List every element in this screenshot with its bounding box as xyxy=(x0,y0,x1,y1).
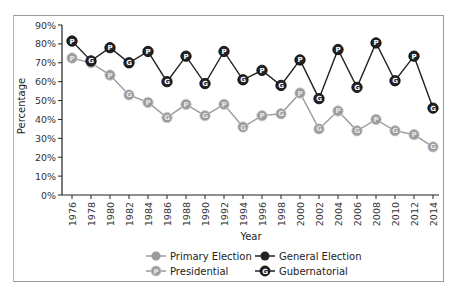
series-layer: PGPGPGPGPGPGPGPGPGPGPGPGPGPGPGPGPGPGPGPG xyxy=(67,36,438,152)
point-label: G xyxy=(240,76,246,84)
x-tick-label: 1990 xyxy=(200,202,211,226)
x-tick-label: 2012 xyxy=(409,202,420,226)
data-point: G xyxy=(276,80,286,90)
data-point: G xyxy=(276,109,286,119)
data-point: P xyxy=(143,46,153,56)
point-label: G xyxy=(164,114,170,122)
legend: Primary ElectionGeneral ElectionPPreside… xyxy=(146,251,362,277)
series-line xyxy=(72,58,433,147)
data-point: P xyxy=(333,106,343,116)
data-point: P xyxy=(67,36,77,46)
data-point: P xyxy=(371,38,381,48)
data-point: G xyxy=(390,76,400,86)
point-label: G xyxy=(164,78,170,86)
data-point: P xyxy=(371,114,381,124)
x-axis: 1976197819801982198419861988199019921994… xyxy=(62,195,439,226)
point-label: G xyxy=(126,91,132,99)
data-point: G xyxy=(352,82,362,92)
point-label: P xyxy=(373,39,378,47)
x-axis-title: Year xyxy=(239,231,262,242)
x-tick-label: 1994 xyxy=(238,202,249,226)
x-tick-label: 2006 xyxy=(352,202,363,226)
x-tick-label: 1988 xyxy=(181,202,192,226)
data-point: G xyxy=(124,58,134,68)
point-label: P xyxy=(145,99,150,107)
point-label: P xyxy=(411,53,416,61)
y-tick-label: 0% xyxy=(41,190,56,201)
y-tick-label: 20% xyxy=(35,152,56,163)
point-label: P xyxy=(221,101,226,109)
y-axis: 0%10%20%30%40%50%60%70%80%90% xyxy=(35,20,62,201)
data-point: G xyxy=(352,126,362,136)
point-label: G xyxy=(316,125,322,133)
x-tick-label: 1998 xyxy=(276,202,287,226)
series-general-election: PGPGPGPGPGPGPGPGPGPG xyxy=(67,36,438,113)
data-point: P xyxy=(219,46,229,56)
data-point: P xyxy=(409,129,419,139)
data-point: P xyxy=(257,110,267,120)
point-label: G xyxy=(240,124,246,132)
data-point: G xyxy=(428,142,438,152)
x-tick-label: 2002 xyxy=(314,202,325,226)
x-tick-label: 1996 xyxy=(257,202,268,226)
legend-item-presidential: PPresidential xyxy=(146,266,228,277)
point-label: G xyxy=(278,110,284,118)
data-point: P xyxy=(409,51,419,61)
point-label: P xyxy=(297,56,302,64)
y-tick-label: 40% xyxy=(35,114,56,125)
y-tick-label: 50% xyxy=(35,95,56,106)
x-tick-label: 1982 xyxy=(124,202,135,226)
point-label: P xyxy=(69,38,74,46)
legend-marker xyxy=(261,252,270,261)
data-point: P xyxy=(295,88,305,98)
point-label: G xyxy=(392,77,398,85)
point-label: G xyxy=(392,127,398,135)
data-point: P xyxy=(105,70,115,80)
x-tick-label: 2010 xyxy=(390,202,401,226)
point-label: P xyxy=(297,90,302,98)
data-point: G xyxy=(200,110,210,120)
x-tick-label: 1992 xyxy=(219,202,230,226)
legend-marker-glyph: P xyxy=(153,268,158,276)
legend-label: Presidential xyxy=(170,266,228,277)
point-label: G xyxy=(354,84,360,92)
data-point: G xyxy=(238,75,248,85)
x-tick-label: 1976 xyxy=(67,202,78,226)
y-tick-label: 80% xyxy=(35,38,56,49)
data-point: G xyxy=(428,103,438,113)
point-label: P xyxy=(221,48,226,56)
data-point: G xyxy=(162,76,172,86)
data-point: P xyxy=(105,42,115,52)
point-label: P xyxy=(183,101,188,109)
y-tick-label: 70% xyxy=(35,57,56,68)
data-point: P xyxy=(333,44,343,54)
data-point: P xyxy=(295,55,305,65)
legend-label: Gubernatorial xyxy=(279,266,348,277)
legend-item-primary-election: Primary Election xyxy=(146,251,252,262)
legend-marker-glyph: G xyxy=(262,268,268,276)
x-tick-label: 2014 xyxy=(428,202,439,226)
point-label: P xyxy=(335,107,340,115)
x-tick-label: 1986 xyxy=(162,202,173,226)
data-point: G xyxy=(238,122,248,132)
point-label: P xyxy=(107,72,112,80)
point-label: G xyxy=(316,95,322,103)
legend-item-general-election: General Election xyxy=(255,251,362,262)
y-tick-label: 90% xyxy=(35,20,56,31)
point-label: G xyxy=(430,143,436,151)
data-point: G xyxy=(86,56,96,66)
data-point: G xyxy=(390,126,400,136)
legend-marker xyxy=(152,252,161,261)
point-label: G xyxy=(430,105,436,113)
point-label: G xyxy=(202,80,208,88)
x-tick-label: 2004 xyxy=(333,202,344,226)
data-point: G xyxy=(314,93,324,103)
point-label: G xyxy=(354,127,360,135)
data-point: P xyxy=(67,53,77,63)
data-point: G xyxy=(200,78,210,88)
line-chart: 0%10%20%30%40%50%60%70%80%90% 1976197819… xyxy=(0,0,457,294)
y-tick-label: 30% xyxy=(35,133,56,144)
y-axis-title: Percentage xyxy=(16,78,27,134)
point-label: G xyxy=(88,57,94,65)
data-point: G xyxy=(314,124,324,134)
